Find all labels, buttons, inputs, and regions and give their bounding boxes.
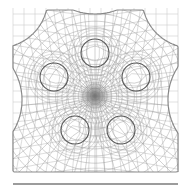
mesh-figure xyxy=(0,0,190,192)
base-line xyxy=(0,0,190,192)
